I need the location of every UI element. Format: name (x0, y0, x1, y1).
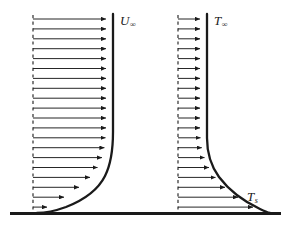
surface-temperature-label: Ts (247, 188, 257, 204)
figure-canvas (0, 0, 288, 231)
boundary-layer-figure: U∞ T∞ Ts (0, 0, 288, 231)
free-stream-velocity-symbol: U (120, 13, 129, 28)
free-stream-temperature-subscript: ∞ (222, 20, 228, 29)
surface-temperature-subscript: s (255, 196, 258, 205)
figure-background (0, 0, 288, 231)
free-stream-velocity-subscript: ∞ (130, 20, 136, 29)
free-stream-temperature-label: T∞ (214, 12, 227, 28)
free-stream-temperature-symbol: T (214, 13, 221, 28)
free-stream-velocity-label: U∞ (120, 12, 135, 28)
surface-temperature-symbol: T (247, 189, 254, 204)
